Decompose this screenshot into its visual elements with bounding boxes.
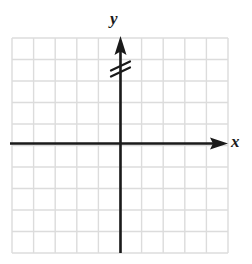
y-axis-label: y [110, 10, 118, 27]
x-axis-label: x [231, 133, 240, 150]
coordinate-grid-figure: y x [0, 0, 252, 264]
coordinate-plane [0, 0, 252, 264]
